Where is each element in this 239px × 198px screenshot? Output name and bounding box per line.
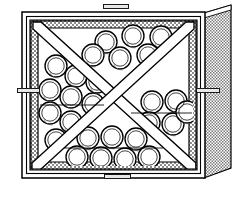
illustration-canvas (0, 0, 239, 198)
left-callout-label (17, 88, 40, 93)
top-callout-label (103, 4, 129, 9)
right-callout-label (196, 88, 220, 93)
bottom-callout-label (104, 174, 131, 179)
rack-drawing (0, 0, 239, 198)
